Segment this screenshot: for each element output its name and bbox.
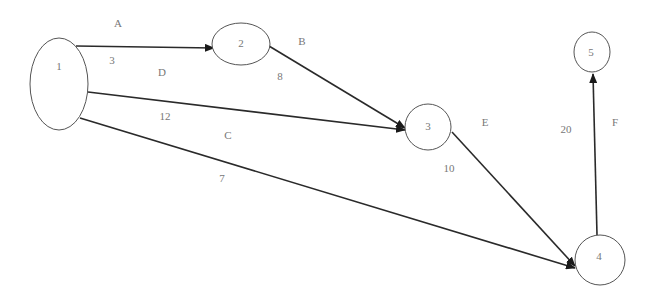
edge-arrow-f [593, 74, 597, 235]
edge-arrow-c [80, 118, 575, 268]
edge-arrow-e [452, 132, 575, 266]
node-5: 5 [574, 32, 610, 72]
node-1: 1 [30, 38, 88, 130]
edges-layer [76, 46, 597, 268]
node-circle [30, 38, 88, 130]
edge-name-label: A [114, 17, 122, 29]
edge-a [76, 46, 214, 48]
edge-weight-label: 3 [109, 54, 115, 66]
edge-f [593, 74, 597, 235]
node-2: 2 [212, 23, 270, 65]
edge-name-label: F [612, 116, 618, 128]
edge-e [452, 132, 575, 266]
edge-arrow-d [88, 92, 405, 130]
edge-name-label: E [482, 116, 489, 128]
edge-weight-label: 20 [561, 123, 573, 135]
edge-name-label: D [158, 66, 166, 78]
edge-arrow-a [76, 46, 214, 48]
node-label: 3 [425, 120, 431, 132]
edge-d [88, 92, 405, 130]
network-diagram: 12345 A3B8D12C7E10F20 [0, 0, 654, 304]
node-3: 3 [405, 104, 451, 150]
edge-weight-label: 12 [160, 110, 171, 122]
edge-name-label: B [298, 35, 305, 47]
edge-name-label: C [224, 129, 231, 141]
edge-weight-label: 10 [444, 162, 456, 174]
node-label: 1 [56, 60, 62, 72]
edge-weight-label: 7 [219, 172, 225, 184]
nodes-layer: 12345 [30, 23, 625, 285]
node-label: 2 [238, 37, 244, 49]
edge-c [80, 118, 575, 268]
node-label: 5 [588, 46, 594, 58]
node-4: 4 [575, 235, 625, 285]
node-label: 4 [596, 250, 602, 262]
edge-weight-label: 8 [277, 70, 283, 82]
edge-labels-layer: A3B8D12C7E10F20 [109, 17, 618, 184]
